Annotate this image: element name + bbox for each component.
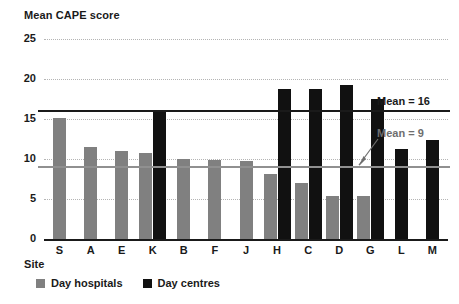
- mean-16-label: Mean = 16: [377, 95, 430, 107]
- x-tick-label-A: A: [76, 244, 106, 256]
- bar-day-hospitals-D: [326, 196, 339, 239]
- bar-day-hospitals-C: [295, 183, 308, 239]
- mean-9-line: [38, 166, 450, 168]
- x-axis-title: Site: [24, 258, 45, 270]
- x-tick-label-D: D: [324, 244, 354, 256]
- gridline-15: [44, 119, 448, 120]
- x-axis-line: [44, 239, 448, 241]
- x-tick-label-L: L: [386, 244, 416, 256]
- bar-day-hospitals-F: [208, 160, 221, 239]
- bar-day-centres-L: [395, 149, 408, 239]
- x-tick-label-C: C: [293, 244, 323, 256]
- x-tick-label-H: H: [262, 244, 292, 256]
- y-tick-label-25: 25: [10, 32, 36, 44]
- legend-swatch-day-hospitals: [36, 279, 45, 288]
- x-tick-label-E: E: [107, 244, 137, 256]
- legend-label-day-hospitals: Day hospitals: [51, 277, 123, 289]
- bar-day-centres-G: [371, 99, 384, 239]
- bar-day-hospitals-A: [84, 147, 97, 239]
- legend-swatch-day-centres: [143, 279, 152, 288]
- x-tick-label-B: B: [169, 244, 199, 256]
- plot-area: 0510152025SAEKBFJHCDGLMMean = 16Mean = 9: [44, 39, 448, 239]
- chart-container: Mean CAPE score 0510152025SAEKBFJHCDGLMM…: [0, 0, 459, 304]
- gridline-25: [44, 39, 448, 40]
- chart-legend: Day hospitals Day centres: [36, 277, 233, 289]
- mean-16-line: [38, 110, 450, 112]
- bar-day-hospitals-G: [357, 196, 370, 239]
- legend-item-day-hospitals: Day hospitals: [36, 277, 123, 289]
- x-tick-label-M: M: [417, 244, 447, 256]
- x-tick-label-S: S: [45, 244, 75, 256]
- gridline-20: [44, 79, 448, 80]
- x-tick-label-J: J: [231, 244, 261, 256]
- bar-day-hospitals-B: [177, 159, 190, 239]
- mean-9-label: Mean = 9: [377, 127, 424, 139]
- bar-day-hospitals-E: [115, 151, 128, 239]
- bar-day-hospitals-H: [264, 174, 277, 239]
- y-axis-title: Mean CAPE score: [24, 9, 120, 21]
- bar-day-centres-K: [153, 111, 166, 239]
- legend-item-day-centres: Day centres: [143, 277, 220, 289]
- y-tick-label-0: 0: [10, 232, 36, 244]
- legend-label-day-centres: Day centres: [158, 277, 220, 289]
- bar-day-hospitals-J: [240, 161, 253, 239]
- x-tick-label-G: G: [355, 244, 385, 256]
- y-tick-label-15: 15: [10, 112, 36, 124]
- y-tick-label-5: 5: [10, 192, 36, 204]
- x-tick-label-K: K: [138, 244, 168, 256]
- bar-day-centres-M: [426, 140, 439, 239]
- x-tick-label-F: F: [200, 244, 230, 256]
- bar-day-hospitals-S: [53, 118, 66, 239]
- y-tick-label-20: 20: [10, 72, 36, 84]
- y-tick-label-10: 10: [10, 152, 36, 164]
- bar-day-centres-D: [340, 85, 353, 239]
